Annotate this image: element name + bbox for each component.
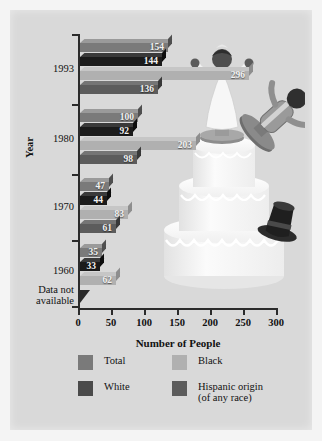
y-tick-labels: 1993 1980 1970 1960 <box>10 10 74 310</box>
data-not-available-line1: Data not <box>38 284 74 295</box>
x-axis-tick <box>177 308 179 315</box>
x-axis-tick <box>210 308 212 315</box>
bar-value-label: 136 <box>140 84 154 94</box>
bar-value-label: 35 <box>89 247 99 257</box>
bar-1970-white: 44 <box>80 196 107 205</box>
bar-value-label: 62 <box>103 275 113 285</box>
x-tick-label-300: 300 <box>256 317 296 328</box>
bar-1993-hispanic: 136 <box>80 85 158 94</box>
bar-1980-hispanic: 98 <box>80 155 137 164</box>
bar-side-face <box>102 240 106 253</box>
x-axis-tick <box>78 308 80 315</box>
bar-1970-hispanic: 61 <box>80 224 116 233</box>
bar-value-label: 296 <box>231 70 245 80</box>
bar-side-face <box>128 202 132 215</box>
legend-item-total: Total <box>78 355 125 370</box>
legend-swatch-white <box>78 381 93 396</box>
legend-label-hispanic-line2: (of any race) <box>198 392 263 403</box>
bar-value-label: 100 <box>120 112 134 122</box>
bar-1993-total: 154 <box>80 43 168 52</box>
data-not-available-line2: available <box>36 295 74 306</box>
bar-1993-white: 144 <box>80 57 162 66</box>
bar-value-label: 98 <box>124 154 134 164</box>
bar-1960-total: 35 <box>80 248 102 257</box>
legend-label-hispanic: Hispanic origin (of any race) <box>198 381 263 403</box>
bar-side-face <box>100 254 104 267</box>
bar-side-face <box>133 119 137 132</box>
bar-value-label: 154 <box>150 42 164 52</box>
legend-swatch-total <box>78 355 93 370</box>
bar-value-label: 203 <box>178 140 192 150</box>
bar-value-label: 61 <box>103 223 113 233</box>
y-tick-label-1970: 1970 <box>53 201 74 212</box>
bar-1980-white: 92 <box>80 127 133 136</box>
bar-side-face <box>109 174 113 187</box>
bar-value-label: 33 <box>87 261 97 271</box>
bar-value-label: 92 <box>120 126 130 136</box>
bar-1960-hispanic-missing <box>80 290 90 303</box>
bar-front-face <box>80 71 249 80</box>
legend-label-black: Black <box>198 355 223 366</box>
y-tick-label-1993: 1993 <box>53 63 74 74</box>
legend-item-hispanic: Hispanic origin (of any race) <box>172 381 263 403</box>
chart-panel: 0 50 100 150 200 250 300 1993 1980 1970 … <box>10 10 312 430</box>
bar-value-label: 44 <box>94 195 104 205</box>
bar-value-label: 144 <box>144 56 158 66</box>
cake-svg <box>160 18 305 308</box>
x-axis-tick <box>243 308 245 315</box>
y-axis-title: Year <box>24 137 35 158</box>
bar-side-face <box>116 216 120 229</box>
legend-item-white: White <box>78 381 130 396</box>
chart-legend: Total Black White Hispanic origin (of an… <box>78 355 288 407</box>
wedding-cake-illustration <box>160 18 305 308</box>
bar-1993-black: 296 <box>80 71 249 80</box>
bar-side-face <box>107 188 111 201</box>
y-tick-label-1980: 1980 <box>53 133 74 144</box>
legend-swatch-black <box>172 355 187 370</box>
legend-swatch-hispanic <box>172 381 187 396</box>
data-not-available-label: Data not available <box>14 285 74 306</box>
legend-label-white: White <box>104 381 130 392</box>
x-axis-tick <box>144 308 146 315</box>
bar-1960-white: 33 <box>80 262 100 271</box>
x-axis-tick <box>111 308 113 315</box>
bar-1960-black: 62 <box>80 276 116 285</box>
x-axis-tick <box>276 308 278 315</box>
bar-1970-black: 83 <box>80 210 128 219</box>
bar-side-face <box>137 147 141 160</box>
legend-row: Total Black <box>78 355 288 381</box>
bar-side-face <box>138 105 142 118</box>
legend-row: White Hispanic origin (of any race) <box>78 381 288 407</box>
bar-1980-total: 100 <box>80 113 138 122</box>
bar-side-face <box>116 268 120 281</box>
x-axis-title: Number of People <box>78 337 278 349</box>
y-tick-label-1960: 1960 <box>53 265 74 276</box>
legend-label-total: Total <box>104 355 125 366</box>
bar-value-label: 47 <box>96 181 106 191</box>
bar-1970-total: 47 <box>80 182 109 191</box>
figure-frame: 0 50 100 150 200 250 300 1993 1980 1970 … <box>0 0 322 441</box>
legend-label-hispanic-line1: Hispanic origin <box>198 381 263 392</box>
legend-item-black: Black <box>172 355 223 370</box>
